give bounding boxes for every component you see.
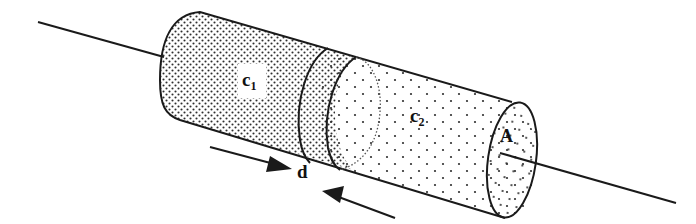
left-wire — [38, 22, 164, 57]
arrow-left-icon — [322, 186, 395, 218]
diagram-stage: c1 c2 d A — [0, 0, 696, 224]
cylinder-diagram: c1 c2 d A — [0, 0, 696, 224]
label-A: A — [500, 126, 513, 146]
label-d: d — [297, 161, 308, 182]
